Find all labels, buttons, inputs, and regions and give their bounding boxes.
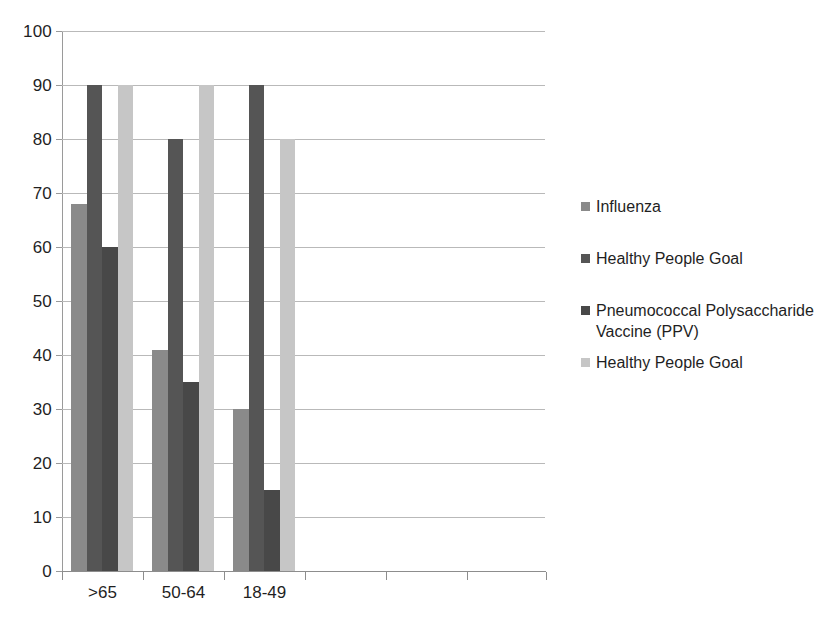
bar bbox=[118, 85, 134, 571]
x-tick-mark bbox=[546, 572, 547, 580]
y-tick-label: 80 bbox=[6, 131, 52, 148]
y-tick-label: 10 bbox=[6, 509, 52, 526]
y-tick-label: 70 bbox=[6, 185, 52, 202]
x-tick-label: 18-49 bbox=[224, 583, 305, 603]
gridline bbox=[62, 31, 545, 32]
gridline bbox=[62, 409, 545, 410]
legend-label: Pneumococcal Polysaccharide Vaccine (PPV… bbox=[596, 300, 833, 342]
gridline bbox=[62, 85, 545, 86]
legend-swatch-icon bbox=[581, 306, 590, 315]
y-tick-label: 0 bbox=[6, 563, 52, 580]
bar bbox=[168, 139, 184, 571]
bar-chart: 100 90 80 70 60 50 40 30 20 10 0 bbox=[0, 0, 837, 618]
y-axis-labels: 100 90 80 70 60 50 40 30 20 10 0 bbox=[0, 0, 52, 618]
gridline bbox=[62, 193, 545, 194]
legend-swatch-icon bbox=[581, 358, 590, 367]
bar bbox=[183, 382, 199, 571]
legend-label: Healthy People Goal bbox=[596, 248, 743, 269]
legend-label: Healthy People Goal bbox=[596, 352, 743, 373]
plot-area bbox=[62, 31, 545, 571]
legend-item[interactable]: Influenza bbox=[581, 196, 833, 217]
gridline bbox=[62, 355, 545, 356]
bar bbox=[199, 85, 215, 571]
bar bbox=[71, 204, 87, 571]
x-tick-mark bbox=[224, 572, 225, 580]
legend-swatch-icon bbox=[581, 254, 590, 263]
y-tick-label: 50 bbox=[6, 293, 52, 310]
y-tick-label: 90 bbox=[6, 77, 52, 94]
x-tick-mark bbox=[62, 572, 63, 580]
y-tick-label: 60 bbox=[6, 239, 52, 256]
bar bbox=[102, 247, 118, 571]
x-tick-label: 50-64 bbox=[143, 583, 224, 603]
y-tick-label: 100 bbox=[6, 23, 52, 40]
chart-legend: Influenza Healthy People Goal Pneumococc… bbox=[581, 196, 833, 373]
x-axis-line bbox=[62, 571, 546, 572]
x-tick-label: >65 bbox=[62, 583, 143, 603]
bar bbox=[264, 490, 280, 571]
x-tick-mark bbox=[467, 572, 468, 580]
gridline bbox=[62, 139, 545, 140]
y-tick-label: 20 bbox=[6, 455, 52, 472]
x-tick-mark bbox=[143, 572, 144, 580]
bar bbox=[152, 350, 168, 571]
bar bbox=[87, 85, 103, 571]
legend-swatch-icon bbox=[581, 202, 590, 211]
bar bbox=[249, 85, 265, 571]
x-tick-mark bbox=[305, 572, 306, 580]
bar bbox=[233, 409, 249, 571]
y-tick-label: 30 bbox=[6, 401, 52, 418]
legend-item[interactable]: Pneumococcal Polysaccharide Vaccine (PPV… bbox=[581, 300, 833, 342]
gridline bbox=[62, 463, 545, 464]
legend-item[interactable]: Healthy People Goal bbox=[581, 248, 833, 269]
legend-label: Influenza bbox=[596, 196, 661, 217]
legend-item[interactable]: Healthy People Goal bbox=[581, 352, 833, 373]
gridline bbox=[62, 247, 545, 248]
gridline bbox=[62, 517, 545, 518]
y-tick-label: 40 bbox=[6, 347, 52, 364]
x-tick-mark bbox=[386, 572, 387, 580]
gridline bbox=[62, 301, 545, 302]
bar bbox=[280, 139, 296, 571]
